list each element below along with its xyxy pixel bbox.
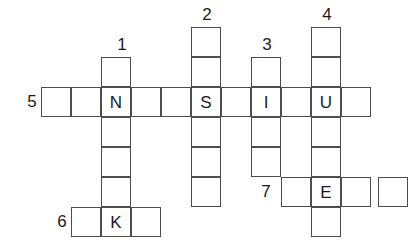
cell-c4r2[interactable]	[161, 87, 191, 117]
cell-c9r0[interactable]	[311, 27, 341, 57]
cell-c1r2[interactable]	[71, 87, 101, 117]
cell-c5r3[interactable]	[191, 117, 221, 147]
crossword-grid: NKSIUE 1234567	[0, 0, 417, 250]
clue-number-5: 5	[22, 93, 42, 110]
cell-c2r6[interactable]: K	[101, 207, 131, 237]
cell-c9r2[interactable]: U	[311, 87, 341, 117]
cell-c9r6[interactable]	[311, 207, 341, 237]
cell-c3r6[interactable]	[131, 207, 161, 237]
clue-number-4: 4	[317, 6, 337, 23]
cell-c10r2[interactable]	[341, 87, 371, 117]
cell-c9r5[interactable]: E	[311, 177, 341, 207]
cell-c6r2[interactable]	[221, 87, 251, 117]
clue-number-6: 6	[52, 213, 72, 230]
cell-c5r0[interactable]	[191, 27, 221, 57]
cell-c5r1[interactable]	[191, 57, 221, 87]
cell-c8r2[interactable]	[281, 87, 311, 117]
cell-c5r5[interactable]	[191, 177, 221, 207]
cell-c2r3[interactable]	[101, 117, 131, 147]
clue-number-7: 7	[256, 183, 276, 200]
cell-c0r2[interactable]	[41, 87, 71, 117]
cell-c3r2[interactable]	[131, 87, 161, 117]
cell-c1r6[interactable]	[71, 207, 101, 237]
cell-c5r4[interactable]	[191, 147, 221, 177]
clue-number-3: 3	[257, 36, 277, 53]
cell-c9r4[interactable]	[311, 147, 341, 177]
cell-c5r2[interactable]: S	[191, 87, 221, 117]
cell-c9r1[interactable]	[311, 57, 341, 87]
cell-c7r2[interactable]: I	[251, 87, 281, 117]
cell-c2r4[interactable]	[101, 147, 131, 177]
cell-c7r1[interactable]	[251, 57, 281, 87]
cell-c11r5[interactable]	[378, 177, 408, 207]
clue-number-2: 2	[197, 6, 217, 23]
cell-c7r3[interactable]	[251, 117, 281, 147]
cell-c9r3[interactable]	[311, 117, 341, 147]
cell-c8r5[interactable]	[281, 177, 311, 207]
cell-c2r5[interactable]	[101, 177, 131, 207]
cell-c2r2[interactable]: N	[101, 87, 131, 117]
cell-c7r4[interactable]	[251, 147, 281, 177]
cell-c2r1[interactable]	[101, 57, 131, 87]
clue-number-1: 1	[112, 36, 132, 53]
cell-c10r5[interactable]	[341, 177, 371, 207]
